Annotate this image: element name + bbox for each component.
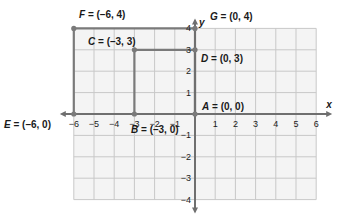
y-tick-label: −3 (181, 173, 191, 183)
y-tick-label: −4 (181, 195, 191, 205)
y-tick-label: −1 (181, 130, 191, 140)
y-axis-arrow-down-icon (192, 208, 198, 214)
point-b (132, 111, 137, 116)
point-label-d: D = (0, 3) (201, 53, 243, 64)
point-f (71, 26, 76, 31)
x-tick-label: 5 (293, 119, 298, 129)
y-tick-label: 3 (186, 45, 191, 55)
point-e (71, 111, 76, 116)
point-d (192, 47, 197, 52)
y-tick-label: 2 (186, 66, 191, 76)
point-label-e: E = (–6, 0) (4, 119, 51, 130)
x-axis-label: x (325, 99, 332, 110)
point-g (192, 26, 197, 31)
y-tick-label: −2 (181, 152, 191, 162)
x-tick-label: 2 (233, 119, 238, 129)
x-tick-label: −6 (69, 119, 79, 129)
x-tick-label: 6 (314, 119, 319, 129)
x-axis-arrow-right-icon (326, 111, 332, 117)
x-tick-label: −4 (109, 119, 119, 129)
y-axis-label: y (198, 17, 205, 28)
y-tick-label: 1 (186, 88, 191, 98)
point-label-c: C = (–3, 3) (88, 36, 136, 47)
y-axis-arrow-up-icon (192, 18, 198, 24)
x-axis-arrow-left-icon (60, 111, 66, 117)
point-c (132, 47, 137, 52)
y-tick-label: 4 (186, 23, 191, 33)
point-label-a: A = (0, 0) (201, 101, 244, 112)
x-tick-label: 1 (213, 119, 218, 129)
x-tick-label: 4 (273, 119, 278, 129)
coordinate-plane: xy −6−5−4−3−2−11234564321−1−2−3−4 A = (0… (0, 0, 344, 222)
x-tick-label: −5 (89, 119, 99, 129)
point-label-g: G = (0, 4) (210, 11, 253, 22)
x-tick-label: 3 (253, 119, 258, 129)
point-label-f: F = (–6, 4) (79, 9, 125, 20)
point-a (192, 111, 197, 116)
point-label-b: B = (–3, 0) (131, 124, 179, 135)
